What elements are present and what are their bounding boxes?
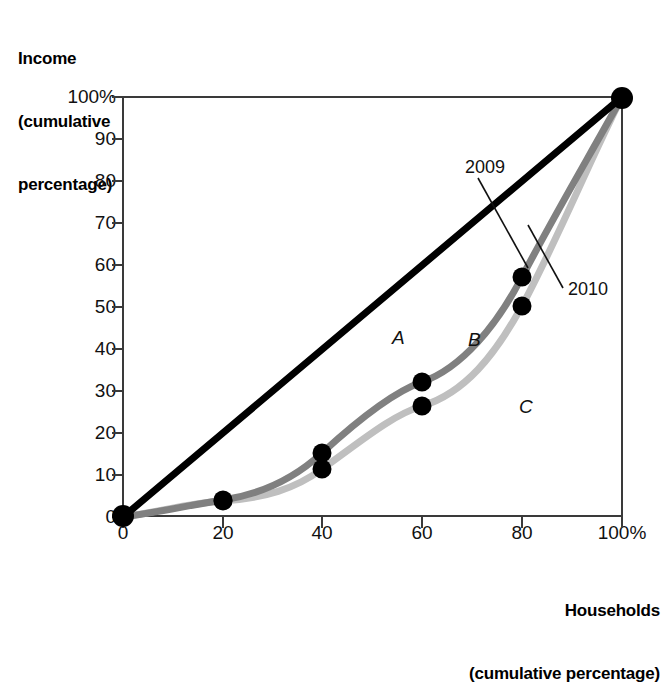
region-label-a: A [392, 327, 405, 349]
marker-2009-60 [413, 373, 432, 392]
x-axis-title-line-2: (cumulative percentage) [330, 663, 660, 684]
series-callout-2010: 2010 [568, 279, 608, 300]
marker-top-right [611, 87, 633, 109]
marker-2009-80 [513, 268, 532, 287]
region-label-b: B [468, 329, 481, 351]
line-of-equality [123, 97, 622, 517]
series-callout-2009: 2009 [465, 157, 505, 178]
x-axis-ticks [123, 517, 622, 528]
marker-origin [112, 505, 134, 527]
region-label-c: C [519, 396, 533, 418]
marker-2010-40 [313, 460, 332, 479]
marker-2010-80 [513, 297, 532, 316]
marker-2010-20 [214, 492, 233, 511]
y-axis-ticks [112, 97, 123, 517]
marker-2010-60 [413, 397, 432, 416]
